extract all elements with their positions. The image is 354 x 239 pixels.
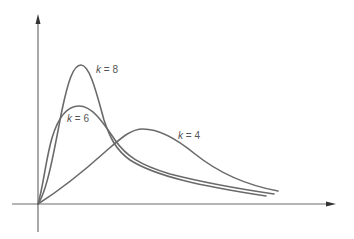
density-chart: k = 8 k = 6 k = 4: [0, 0, 354, 239]
x-axis-arrow-icon: [326, 202, 336, 207]
label-k6: k = 6: [67, 113, 89, 124]
curve-k8: [38, 65, 266, 204]
label-k8: k = 8: [96, 64, 118, 75]
label-k4: k = 4: [178, 130, 200, 141]
y-axis-arrow-icon: [36, 14, 41, 24]
